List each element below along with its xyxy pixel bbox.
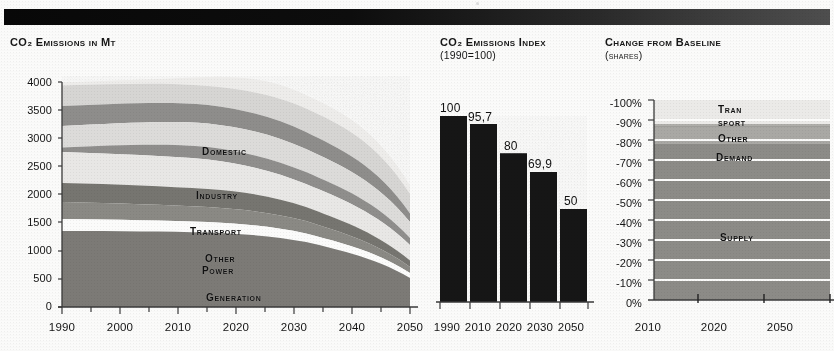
baseline-chart-plot — [648, 95, 834, 320]
area-band-label-power: Power — [202, 265, 234, 276]
baseline-chart-panel: -100% -90% -80% -70% -60% -50% -40% -30%… — [598, 0, 834, 351]
area-chart-plot — [58, 70, 418, 315]
baseline-ytick-70: -70% — [598, 157, 642, 169]
area-band-label-domestic: Domestic — [202, 146, 247, 157]
area-band-label-generation: Generation — [206, 292, 261, 303]
area-ytick-3500: 3500 — [8, 104, 52, 116]
baseline-band-label-supply: Supply — [720, 232, 754, 243]
baseline-xtick-2010: 2010 — [624, 321, 672, 333]
area-ytick-2500: 2500 — [8, 160, 52, 172]
area-band-label-industry: Industry — [196, 190, 238, 201]
baseline-xtick-2020: 2020 — [690, 321, 738, 333]
area-xtick-2010: 2010 — [154, 321, 202, 333]
index-bar-value-2030: 69,9 — [528, 157, 552, 171]
area-xtick-2030: 2030 — [270, 321, 318, 333]
baseline-xtick-2050: 2050 — [756, 321, 804, 333]
area-xtick-2000: 2000 — [96, 321, 144, 333]
area-xtick-2040: 2040 — [328, 321, 376, 333]
baseline-ytick-10: -10% — [598, 277, 642, 289]
baseline-ytick-60: -60% — [598, 177, 642, 189]
baseline-ytick-30: -30% — [598, 237, 642, 249]
area-ytick-2000: 2000 — [8, 188, 52, 200]
baseline-ytick-90: -90% — [598, 117, 642, 129]
area-ytick-1000: 1000 — [8, 244, 52, 256]
index-bar-value-2050: 50 — [564, 194, 578, 208]
area-xtick-1990: 1990 — [38, 321, 86, 333]
baseline-band-label-other: Other — [718, 133, 748, 144]
area-ytick-1500: 1500 — [8, 216, 52, 228]
area-xtick-2020: 2020 — [212, 321, 260, 333]
area-ytick-0: 0 — [8, 300, 52, 312]
index-bar-value-2020: 80 — [504, 139, 518, 153]
index-xtick-2050: 2050 — [547, 321, 595, 333]
baseline-ytick-80: -80% — [598, 137, 642, 149]
area-ytick-500: 500 — [8, 272, 52, 284]
area-chart-panel: 4000 3500 3000 2500 2000 1500 1000 500 0 — [0, 0, 430, 351]
area-band-label-transport: Transport — [190, 226, 242, 237]
area-ytick-4000: 4000 — [8, 76, 52, 88]
index-bar-value-2010: 95,7 — [468, 110, 492, 124]
baseline-ytick-50: -50% — [598, 197, 642, 209]
baseline-band-label-transport-2: sport — [718, 117, 746, 128]
baseline-ytick-40: -40% — [598, 217, 642, 229]
baseline-ytick-0: 0% — [598, 297, 642, 309]
index-chart-panel: 100 95,7 80 69,9 50 1990 2010 2020 2030 … — [430, 0, 600, 351]
baseline-ytick-20: -20% — [598, 257, 642, 269]
baseline-band-label-transport-1: Tran — [718, 104, 742, 115]
area-band-label-other: Other — [205, 253, 235, 264]
index-bar-value-1990: 100 — [440, 101, 461, 115]
baseline-ytick-100: -100% — [598, 97, 642, 109]
area-ytick-3000: 3000 — [8, 132, 52, 144]
baseline-band-label-demand: Demand — [716, 152, 753, 163]
figure-page: CO₂ Emissions in Mt CO₂ Emissions Index … — [0, 0, 834, 351]
